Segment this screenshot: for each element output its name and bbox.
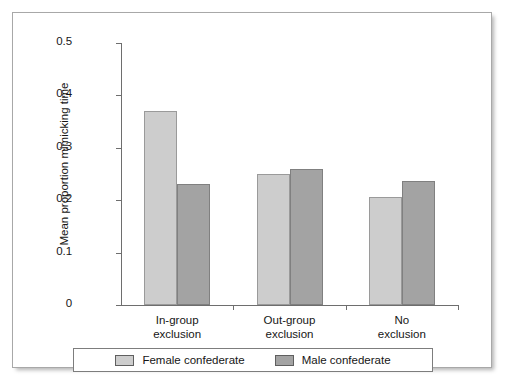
- category-label-line1: No: [394, 314, 409, 326]
- legend-swatch-female-icon: [115, 355, 134, 366]
- bar-female-group-2: [257, 174, 290, 305]
- y-axis-tick-label: 0.1: [32, 245, 72, 257]
- legend-item-female: Female confederate: [115, 354, 244, 366]
- x-axis-tick: [458, 305, 459, 310]
- x-axis-line: [121, 305, 458, 306]
- x-axis-tick: [346, 305, 347, 310]
- plot-area: Mean proportion mimicking time 0.50.40.3…: [13, 13, 493, 369]
- y-axis-tick-label: 0.5: [32, 35, 72, 47]
- y-axis-tick-label: 0: [32, 297, 72, 309]
- bars-layer: [121, 43, 458, 305]
- bar-male-group-3: [402, 181, 435, 305]
- category-label-line2: exclusion: [225, 327, 355, 341]
- chart-legend: Female confederate Male confederate: [73, 348, 433, 372]
- y-axis-tick-label: 0.3: [32, 140, 72, 152]
- legend-swatch-male-icon: [275, 355, 294, 366]
- bar-male-group-2: [290, 169, 323, 305]
- x-axis-category-label: In-groupexclusion: [112, 313, 242, 341]
- y-axis-tick-label: 0.4: [32, 87, 72, 99]
- category-label-line2: exclusion: [112, 327, 242, 341]
- bar-female-group-1: [144, 111, 177, 305]
- legend-label-female: Female confederate: [142, 354, 244, 366]
- category-label-line2: exclusion: [337, 327, 467, 341]
- bar-female-group-3: [369, 197, 402, 305]
- x-axis-category-label: Out-groupexclusion: [225, 313, 355, 341]
- x-axis-tick: [233, 305, 234, 310]
- y-axis-tick-label: 0.2: [32, 192, 72, 204]
- bar-male-group-1: [177, 184, 210, 305]
- category-label-line1: Out-group: [264, 314, 316, 326]
- legend-label-male: Male confederate: [302, 354, 391, 366]
- x-axis-category-label: Noexclusion: [337, 313, 467, 341]
- figure-frame: Mean proportion mimicking time 0.50.40.3…: [12, 12, 492, 368]
- category-label-line1: In-group: [156, 314, 199, 326]
- legend-item-male: Male confederate: [275, 354, 391, 366]
